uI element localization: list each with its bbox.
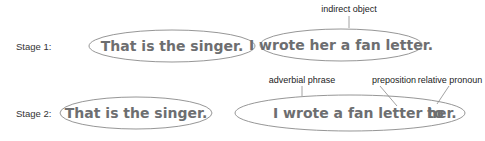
stage-2-label: Stage 2: xyxy=(16,108,51,119)
stage-1-left-sentence: That is the singer. xyxy=(101,38,243,54)
annotation-adverbial-phrase: adverbial phrase xyxy=(269,75,336,85)
stage-2-right-sentence-part2: her. xyxy=(427,105,457,121)
stage-1-label: Stage 1: xyxy=(16,41,51,52)
relative-pronoun-leader xyxy=(437,86,449,104)
annotation-preposition: preposition xyxy=(372,75,416,85)
stage-2-left-sentence: That is the singer. xyxy=(65,105,207,121)
annotation-indirect-object: indirect object xyxy=(321,4,377,14)
annotation-relative-pronoun: relative pronoun xyxy=(418,75,483,85)
stage-2-right-sentence-part1: I wrote a fan letter to xyxy=(273,105,444,121)
sentence-combining-diagram: Stage 1: That is the singer. I wrote her… xyxy=(0,0,485,141)
stage-1-right-sentence: I wrote her a fan letter. xyxy=(249,37,433,53)
